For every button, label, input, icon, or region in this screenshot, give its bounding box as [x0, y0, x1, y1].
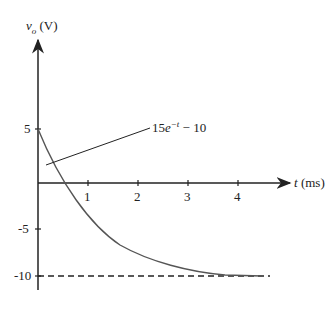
- x-tick-label: 3: [184, 189, 191, 205]
- y-tick-label: -10: [14, 268, 31, 284]
- curve-annotation: 15e−t − 10: [152, 119, 206, 136]
- x-tick-label: 1: [84, 189, 91, 205]
- decay-curve: [38, 129, 262, 276]
- x-tick-label: 4: [234, 189, 241, 205]
- plot-canvas: [0, 0, 334, 314]
- x-tick-label: 2: [134, 189, 141, 205]
- y-axis-label: vo (V): [26, 18, 58, 36]
- y-tick-label: -5: [18, 221, 29, 237]
- annotation-leader: [46, 128, 150, 165]
- y-tick-label: 5: [24, 121, 31, 137]
- x-axis-label: t (ms): [294, 175, 325, 191]
